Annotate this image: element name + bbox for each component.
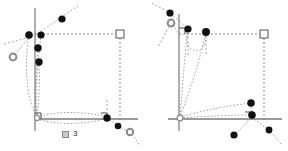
- dashed-rectangle: [35, 34, 120, 119]
- figure-3-caption: 3: [62, 130, 77, 138]
- square-marker: [260, 30, 268, 38]
- figure-4-graphic: [144, 0, 288, 151]
- diagram-canvas: 3: [0, 0, 288, 151]
- open-circle-marker: [168, 20, 175, 27]
- square-marker: [116, 30, 124, 38]
- open-circle-markers: [10, 54, 134, 136]
- figure-3: 3: [0, 0, 144, 151]
- origin-open-circle: [177, 115, 183, 121]
- missing-glyph-box-icon: [62, 131, 69, 138]
- origin-open-circle: [34, 115, 39, 120]
- right-angle-marks: [179, 28, 252, 119]
- axes: [35, 8, 138, 131]
- figure-3-number: 3: [73, 130, 77, 138]
- vertical-dotted-drops: [188, 33, 264, 56]
- right-angle-marks: [35, 113, 107, 119]
- figure-3-graphic: [0, 0, 144, 151]
- figure-4: 4: [144, 0, 288, 151]
